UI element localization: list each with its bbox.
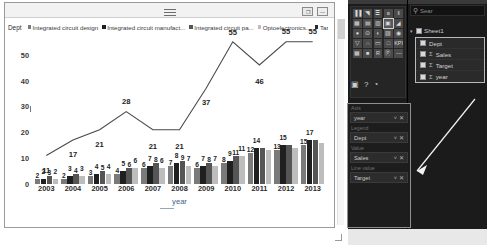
visualization-type-icon[interactable]: ∩ [363, 39, 372, 48]
y-axis-tick-label: 0 [25, 180, 29, 189]
sum-aggregate-icon: Σ [429, 51, 433, 57]
chevron-down-icon[interactable]: ˅ [394, 155, 397, 161]
line-value-label: 55 [229, 27, 237, 36]
sum-aggregate-icon: Σ [429, 62, 433, 68]
visualization-type-glyph: ⊙ [363, 29, 372, 38]
visualization-type-glyph: ≡ [384, 9, 393, 18]
visualization-type-icon[interactable]: ▐▐ [353, 9, 362, 18]
visualization-type-glyph: ▥ [374, 19, 383, 28]
x-axis-tick-label: 2009 [193, 184, 220, 196]
well-section-label: Value [348, 144, 410, 152]
visualization-type-glyph: ‖ [394, 9, 403, 18]
visualization-type-icon[interactable]: ⋯ [394, 49, 403, 58]
visualization-type-glyph: ◥ [363, 9, 372, 18]
visualization-type-icon[interactable]: R [374, 49, 383, 58]
data-source-row[interactable]: ▾ Sheet1 [410, 27, 485, 34]
checkbox-icon[interactable] [416, 28, 422, 34]
visualization-type-icon[interactable]: KPI [394, 39, 403, 48]
visualization-type-icon[interactable]: ▣ [384, 19, 393, 28]
visualization-type-icon[interactable]: ▦ [353, 19, 362, 28]
y-axis-tick-label: 40 [21, 76, 29, 85]
chevron-down-icon[interactable]: ˅ [394, 175, 397, 181]
well-field-label: Sales [354, 155, 369, 161]
visualization-type-icon[interactable]: ▭ [374, 39, 383, 48]
y-axis-tick-label: 20 [21, 128, 29, 137]
field-list-item[interactable]: Σyear [416, 71, 484, 82]
scrollbar-thumb[interactable] [338, 19, 345, 39]
legend-title: Dept [8, 24, 22, 31]
legend-item-label: Integrated circuit design [33, 24, 99, 31]
visualization-type-icon[interactable]: ▨ [384, 29, 393, 38]
field-list-item[interactable]: ΣSales [416, 49, 484, 60]
visualization-type-icon[interactable]: ▤ [363, 19, 372, 28]
chevron-down-icon[interactable]: ˅ [394, 135, 397, 141]
caret-down-icon[interactable]: ▾ [410, 28, 413, 34]
visualization-type-icon[interactable]: ⊙ [363, 29, 372, 38]
window-titlebar[interactable]: ❐ — [5, 3, 334, 18]
gallery-extra-icon[interactable]: ◔ [373, 80, 378, 89]
plot-panel: 2232234334544566678678976787891111121413… [33, 34, 326, 184]
line-value-label: 21 [95, 139, 103, 148]
field-list-item[interactable]: ΣTarget [416, 60, 484, 71]
visualization-type-glyph: ◢ [394, 19, 403, 28]
legend-swatch-icon [28, 25, 32, 29]
field-list: DeptΣSalesΣTargetΣyear [415, 37, 485, 83]
x-axis-tick-label: 2010 [219, 184, 246, 196]
line-value-label: 17 [69, 150, 77, 159]
vertical-scrollbar[interactable] [337, 19, 344, 225]
visualization-type-icon[interactable]: ◢ [394, 19, 403, 28]
fields-pane: ⚲ Sear ▾ Sheet1 DeptΣSalesΣTargetΣyear [410, 5, 485, 83]
visualization-type-icon[interactable]: ≡ [384, 9, 393, 18]
visualization-type-icon[interactable]: ▥ [374, 19, 383, 28]
well-field-chip[interactable]: year˅✕ [350, 112, 408, 123]
legend-item[interactable]: Integrated circuit pa... [189, 24, 254, 31]
gallery-extra-icon[interactable]: ? [364, 80, 368, 89]
well-field-chip[interactable]: Target˅✕ [350, 172, 408, 183]
visualization-type-glyph: ⋯ [394, 49, 403, 58]
visualization-type-icon[interactable]: ≣ [374, 9, 383, 18]
chevron-down-icon[interactable]: ˅ [394, 115, 397, 121]
visualization-type-icon[interactable]: ▦ [353, 49, 362, 58]
legend-item[interactable]: Integrated circuit manufact... [102, 24, 185, 31]
x-axis-tick-label: 2004 [60, 184, 87, 196]
checkbox-icon[interactable] [420, 74, 426, 80]
visualization-type-icon[interactable]: ‖ [394, 9, 403, 18]
visualization-type-icon[interactable]: □ [384, 39, 393, 48]
gallery-extra-icon[interactable]: ▣ [351, 80, 359, 89]
visualization-type-icon[interactable]: ■ [363, 49, 372, 58]
legend-item[interactable]: Target [315, 24, 328, 31]
visualization-type-icon[interactable]: ◉ [394, 29, 403, 38]
minimize-button[interactable]: — [317, 7, 328, 16]
checkbox-icon[interactable] [420, 51, 426, 57]
x-axis-tick-label: 2013 [299, 184, 326, 196]
search-icon: ⚲ [413, 7, 418, 15]
visualization-type-glyph: ■ [363, 49, 372, 58]
visualization-type-glyph: KPI [394, 39, 403, 48]
search-input[interactable]: ⚲ Sear [410, 5, 485, 16]
visualization-type-icon[interactable]: ▽ [353, 39, 362, 48]
field-wells: Axisyear˅✕LegendDept˅✕ValueSales˅✕Line v… [347, 103, 411, 228]
x-axis-tick-label: 2012 [273, 184, 300, 196]
resize-grip[interactable] [335, 234, 342, 241]
visualization-type-glyph: ▽ [353, 39, 362, 48]
x-axis-tick-label: 2007 [140, 184, 167, 196]
x-axis: 2003200420052006200720082009201020112012… [33, 184, 326, 196]
y-axis: 01020304050 [8, 34, 32, 184]
visualization-type-icon[interactable]: ◐ [374, 29, 383, 38]
checkbox-icon[interactable] [420, 62, 426, 68]
checkbox-icon[interactable] [420, 40, 426, 46]
legend-swatch-icon [189, 25, 193, 29]
legend-swatch-icon [102, 25, 106, 29]
legend-item[interactable]: Integrated circuit design [28, 24, 99, 31]
pane-bottom-strip [348, 229, 487, 245]
well-field-label: Target [354, 175, 370, 181]
visualization-type-icon[interactable]: ◥ [363, 9, 372, 18]
search-placeholder: Sear [420, 8, 433, 14]
well-field-chip[interactable]: Sales˅✕ [350, 152, 408, 163]
visualization-type-icon[interactable]: Ⓟ [384, 49, 393, 58]
field-list-item[interactable]: Dept [416, 38, 484, 49]
visualization-type-icon[interactable]: ● [353, 29, 362, 38]
restore-button[interactable]: ❐ [302, 7, 313, 16]
well-field-chip[interactable]: Dept˅✕ [350, 132, 408, 143]
data-source-label: Sheet1 [424, 27, 444, 34]
